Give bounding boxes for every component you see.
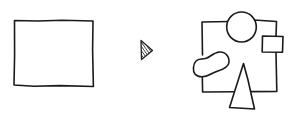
circle-shape: [227, 12, 257, 42]
triangle-shape: [230, 64, 255, 110]
plain-rectangle: [14, 20, 93, 86]
diagram-canvas: [0, 0, 298, 116]
blob-shape: [193, 52, 229, 77]
small-rectangle-shape: [262, 36, 283, 52]
arrow-right-icon: [141, 41, 153, 60]
